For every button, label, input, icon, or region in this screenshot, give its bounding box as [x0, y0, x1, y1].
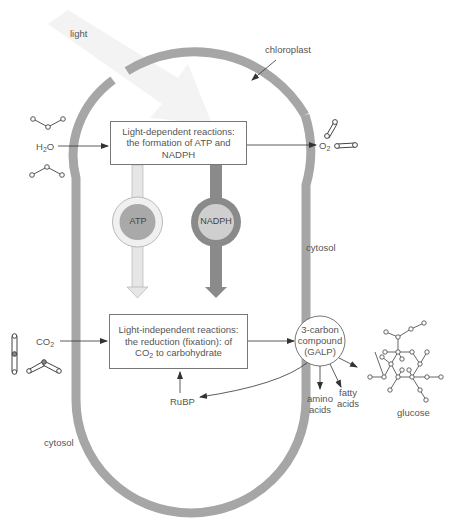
nadph-arrow [191, 165, 241, 298]
glucose-molecule-icon [368, 321, 443, 402]
chloroplast-label: chloroplast [265, 44, 311, 55]
atp-arrow [113, 165, 163, 298]
atp-label: ATP [120, 216, 156, 226]
cytosol-label-left: cytosol [44, 437, 74, 448]
co2-molecule-icon [12, 334, 17, 375]
oxygen-molecule-icon [335, 143, 358, 149]
glucose-arrow [339, 358, 357, 367]
co2-molecule-icon [27, 360, 62, 374]
cytosol-label-right: cytosol [306, 242, 336, 253]
o2-label: O2 [319, 140, 330, 151]
fatty-acids-label: fattyacids [333, 387, 363, 409]
water-molecule-icon [31, 117, 66, 130]
light-dependent-reactions-box: Light-dependent reactions: the formation… [110, 121, 247, 165]
glucose-label: glucose [397, 407, 430, 418]
light-independent-reactions-box: Light-independent reactions: the reducti… [109, 314, 248, 369]
galp-label: 3-carbon compound (GALP) [297, 324, 343, 357]
nadph-label: NADPH [196, 216, 236, 226]
co2-label: CO2 [36, 336, 54, 347]
water-molecule-icon [30, 165, 65, 178]
oxygen-molecule-icon [325, 120, 338, 139]
light-label: light [70, 28, 87, 39]
rubp-label: RuBP [170, 396, 195, 407]
fatty-acids-arrow [330, 364, 341, 387]
h2o-label: H2O [36, 141, 54, 152]
